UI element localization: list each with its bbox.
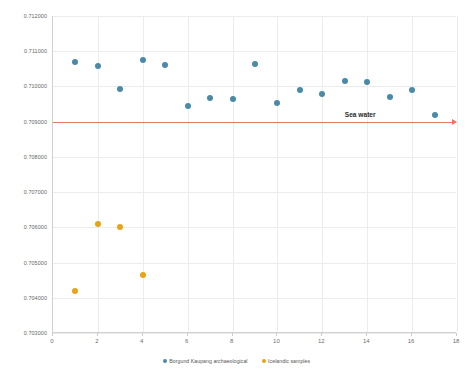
data-point [185, 103, 191, 109]
gridline-horizontal [53, 333, 456, 334]
y-axis-tick-label: 0.707000 [24, 189, 47, 195]
x-axis-tick-label: 8 [230, 338, 233, 344]
legend-marker-icon [163, 359, 167, 363]
y-axis-tick-label: 0.710000 [24, 83, 47, 89]
x-axis-tickmark [232, 333, 233, 336]
data-point [274, 100, 280, 106]
gridline-horizontal [53, 192, 456, 193]
data-point [117, 86, 123, 92]
gridline-vertical [188, 16, 189, 332]
data-point [319, 91, 325, 97]
y-axis-tick-label: 0.706000 [24, 224, 47, 230]
x-axis-tick-label: 0 [50, 338, 53, 344]
data-point [72, 288, 78, 294]
gridline-horizontal [53, 16, 456, 17]
data-point [95, 221, 101, 227]
data-point [252, 61, 258, 67]
gridline-vertical [457, 16, 458, 332]
gridline-horizontal [53, 86, 456, 87]
y-axis-tick-label: 0.712000 [24, 13, 47, 19]
x-axis-tick-label: 18 [453, 338, 460, 344]
data-point [409, 87, 415, 93]
y-axis-tick-label: 0.704000 [24, 295, 47, 301]
y-axis-tick-label: 0.703000 [24, 330, 47, 336]
x-axis-tickmark [142, 333, 143, 336]
chart-legend: Borgund Kaupang archaeologicalIcelandic … [0, 358, 473, 364]
gridline-vertical [277, 16, 278, 332]
x-axis-tickmark [276, 333, 277, 336]
data-point [140, 57, 146, 63]
legend-label: Borgund Kaupang archaeological [169, 358, 247, 364]
gridline-vertical [322, 16, 323, 332]
data-point [117, 224, 123, 230]
data-point [140, 272, 146, 278]
data-point [95, 63, 101, 69]
gridline-horizontal [53, 51, 456, 52]
x-axis-tickmark [187, 333, 188, 336]
gridline-horizontal [53, 263, 456, 264]
y-axis-tick-label: 0.708000 [24, 154, 47, 160]
x-axis-tick-label: 2 [95, 338, 98, 344]
gridline-vertical [233, 16, 234, 332]
x-axis-tick-label: 4 [140, 338, 143, 344]
gridline-horizontal [53, 227, 456, 228]
data-point [207, 95, 213, 101]
x-axis-tickmark [321, 333, 322, 336]
sea-water-label: Sea water [345, 111, 376, 118]
data-point [432, 112, 438, 118]
legend-marker-icon [262, 359, 266, 363]
x-axis-tick-label: 14 [363, 338, 370, 344]
gridline-vertical [367, 16, 368, 332]
x-axis-tickmark [411, 333, 412, 336]
data-point [72, 59, 78, 65]
data-point [230, 96, 236, 102]
x-axis-tickmark [456, 333, 457, 336]
legend-item[interactable]: Borgund Kaupang archaeological [163, 358, 248, 364]
legend-label: Icelandic samples [268, 358, 310, 364]
y-axis-tick-label: 0.705000 [24, 260, 47, 266]
data-point [297, 87, 303, 93]
plot-area: Sea water [52, 16, 456, 333]
data-point [342, 78, 348, 84]
x-axis-tickmark [52, 333, 53, 336]
y-axis-tick-label: 0.709000 [24, 119, 47, 125]
y-axis-tick-label: 0.711000 [24, 48, 47, 54]
x-axis-tickmark [366, 333, 367, 336]
gridline-horizontal [53, 157, 456, 158]
gridline-vertical [412, 16, 413, 332]
data-point [387, 94, 393, 100]
x-axis-tick-label: 12 [318, 338, 325, 344]
x-axis-tickmark [97, 333, 98, 336]
gridline-vertical [143, 16, 144, 332]
gridline-horizontal [53, 298, 456, 299]
data-point [162, 62, 168, 68]
data-point [364, 79, 370, 85]
sea-water-arrow-icon [452, 119, 457, 125]
legend-item[interactable]: Icelandic samples [262, 358, 311, 364]
x-axis-tick-label: 10 [273, 338, 280, 344]
sea-water-line [53, 122, 453, 123]
x-axis-tick-label: 16 [408, 338, 415, 344]
strontium-isotope-scatter-chart: Sea water 0.7030000.7040000.7050000.7060… [0, 0, 473, 384]
x-axis-tick-label: 6 [185, 338, 188, 344]
